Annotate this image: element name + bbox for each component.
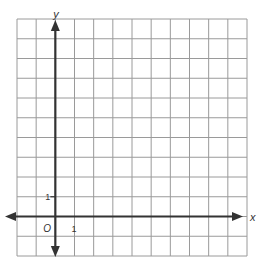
x-axis <box>5 212 243 221</box>
x-axis-left-arrow-icon <box>5 212 16 221</box>
y-axis-up-arrow-icon <box>51 20 60 31</box>
y-axis-label: y <box>52 8 60 20</box>
x-axis-right-arrow-icon <box>232 212 243 221</box>
grid-lines <box>17 19 247 256</box>
y-axis <box>51 20 60 257</box>
x-tick-label-1: 1 <box>72 224 77 234</box>
origin-label: O <box>43 223 51 234</box>
coordinate-grid: y x O 1 1 <box>0 0 265 272</box>
y-tick-label-1: 1 <box>45 192 50 202</box>
y-axis-down-arrow-icon <box>51 246 60 257</box>
x-axis-label: x <box>249 211 256 223</box>
